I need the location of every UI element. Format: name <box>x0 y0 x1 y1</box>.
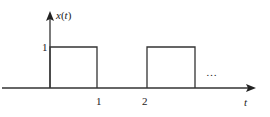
continuation-ellipsis: … <box>206 66 217 78</box>
x-axis-label: t <box>244 96 248 108</box>
x-tick-2: 2 <box>142 95 148 107</box>
pulse-train-plot: x(t) 1 1 2 t … <box>0 0 270 117</box>
pulse-2 <box>147 47 195 88</box>
y-tick-1: 1 <box>42 41 48 53</box>
x-tick-1: 1 <box>96 95 102 107</box>
pulse-1 <box>50 47 97 88</box>
y-axis-label: x(t) <box>55 9 72 22</box>
